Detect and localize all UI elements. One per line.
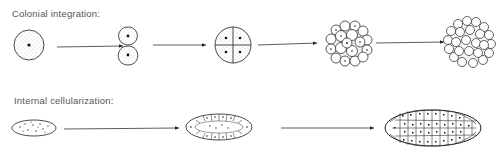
stage-multicell-colony [326,21,372,66]
stage-single-cell [14,30,44,60]
arrow-1 [57,46,123,47]
stage-multinucleate-cell [12,120,56,136]
diagram-canvas [0,0,496,149]
arrow-3 [258,43,317,45]
stage-fully-cellularized [385,110,481,146]
stage-four-cell [215,27,251,63]
stage-integrated-colony [444,17,496,68]
arrow-5 [64,128,179,129]
nucleus-icon [27,43,30,46]
arrow-4 [376,42,444,43]
stage-partially-cellularized [186,114,252,140]
